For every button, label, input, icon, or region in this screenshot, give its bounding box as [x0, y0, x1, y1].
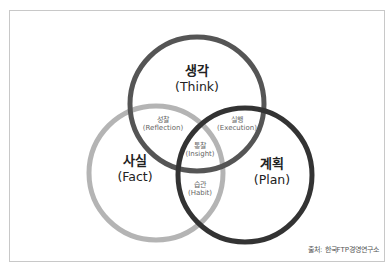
habit-label: 습관 (Habit) [180, 181, 220, 198]
plan-label: 계획 (Plan) [247, 156, 297, 187]
habit-label-ko: 습관 [180, 181, 220, 189]
habit-label-en: (Habit) [180, 189, 220, 197]
reflection-label-en: (Reflection) [138, 124, 188, 132]
fact-label-en: (Fact) [110, 169, 160, 184]
source-credit: 출처: 한국FTP경영연구소 [308, 244, 379, 254]
think-label: 생각 (Think) [167, 63, 227, 94]
reflection-label-ko: 성찰 [138, 116, 188, 124]
insight-label-ko: 통찰 [180, 142, 220, 150]
execution-label-en: (Execution) [210, 124, 264, 132]
execution-label-ko: 실행 [210, 116, 264, 124]
venn-circles [0, 0, 391, 280]
fact-label-ko: 사실 [110, 153, 160, 169]
think-label-en: (Think) [167, 79, 227, 94]
reflection-label: 성찰 (Reflection) [138, 116, 188, 133]
fact-label: 사실 (Fact) [110, 153, 160, 184]
insight-label-en: (Insight) [180, 150, 220, 158]
insight-label: 통찰 (Insight) [180, 142, 220, 159]
plan-label-ko: 계획 [247, 156, 297, 172]
execution-label: 실행 (Execution) [210, 116, 264, 133]
plan-label-en: (Plan) [247, 172, 297, 187]
think-label-ko: 생각 [167, 63, 227, 79]
